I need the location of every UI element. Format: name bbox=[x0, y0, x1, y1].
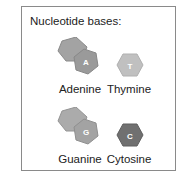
guanine-icon: G bbox=[50, 107, 114, 151]
svg-text:T: T bbox=[128, 62, 133, 71]
nucleotide-legend-panel: Nucleotide bases: A Adenine T Thymine G … bbox=[21, 6, 176, 171]
panel-title: Nucleotide bases: bbox=[30, 15, 121, 27]
adenine-icon: A bbox=[50, 37, 114, 81]
thymine-label: Thymine bbox=[97, 83, 161, 95]
cytosine-icon: C bbox=[116, 123, 144, 147]
svg-text:G: G bbox=[83, 128, 89, 137]
thymine-icon: T bbox=[116, 53, 144, 77]
svg-text:A: A bbox=[83, 58, 89, 67]
svg-text:C: C bbox=[127, 132, 133, 141]
cytosine-label: Cytosine bbox=[97, 153, 161, 165]
